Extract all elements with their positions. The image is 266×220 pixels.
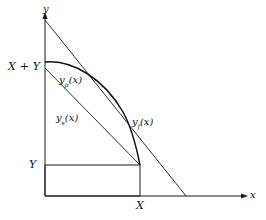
tick-x-plus-y-first: X bbox=[8, 60, 16, 73]
curve-label-ys: ys(x) bbox=[56, 113, 78, 125]
curve-label-yp-subscript: p bbox=[64, 81, 68, 88]
y-axis-tick-label-x-plus-y: X + Y bbox=[8, 61, 40, 72]
x-axis-tick-label-x: X bbox=[136, 200, 144, 211]
curve-label-yp-argument: (x) bbox=[69, 74, 82, 85]
y-axis-tick-label-y: Y bbox=[29, 159, 36, 170]
curve-yf-line bbox=[45, 20, 186, 196]
curve-label-yp: yp(x) bbox=[59, 75, 82, 87]
curve-label-ys-argument: (x) bbox=[65, 112, 78, 123]
x-axis-arrow-icon bbox=[241, 193, 248, 198]
y-axis-label: y bbox=[43, 4, 49, 14]
figure-root: y x X + Y Y X yp(x) ys(x) yf(x) bbox=[0, 0, 266, 220]
curve-label-ys-subscript: s bbox=[61, 119, 64, 126]
curve-label-yf-argument: (x) bbox=[140, 116, 153, 127]
tick-x-plus-y-operator: + bbox=[20, 60, 29, 73]
tick-x-plus-y-second: Y bbox=[33, 60, 40, 73]
figure-canvas bbox=[0, 0, 266, 220]
curve-label-yf-subscript: f bbox=[137, 123, 139, 130]
x-axis-label: x bbox=[250, 190, 256, 200]
curve-label-yf: yf(x) bbox=[132, 117, 153, 129]
